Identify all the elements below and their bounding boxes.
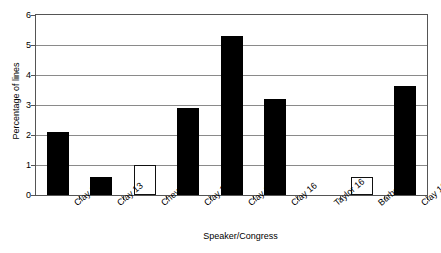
x-tick-label: Clay 16 bbox=[289, 200, 295, 208]
y-tick-label: 6 bbox=[5, 11, 31, 20]
bar-clay-15 bbox=[221, 36, 243, 195]
bar-chart: Percentage of lines 0123456 Clay 12Clay … bbox=[0, 0, 441, 253]
x-tick-label: Clay 12 bbox=[72, 200, 78, 208]
x-tick-label: Taylor 16 bbox=[332, 200, 338, 208]
x-tick-label: Cheves 13 bbox=[159, 200, 165, 208]
bar-clay-12 bbox=[47, 132, 69, 195]
x-tick-label: Barbour 17 bbox=[376, 200, 382, 208]
x-axis-labels: Clay 12Clay 13Cheves 13Clay 14Clay 15Cla… bbox=[36, 200, 427, 250]
x-axis-title: Speaker/Congress bbox=[0, 231, 441, 241]
x-tick-label: Clay 14 bbox=[202, 200, 208, 208]
x-tick-label: Clay 13 bbox=[115, 200, 121, 208]
x-tick-label: Clay 15 bbox=[246, 200, 252, 208]
y-tick-label: 3 bbox=[5, 101, 31, 110]
y-tick-label: 1 bbox=[5, 161, 31, 170]
y-axis-ticks: 0123456 bbox=[0, 14, 31, 196]
y-tick-label: 0 bbox=[5, 191, 31, 200]
y-tick-label: 5 bbox=[5, 41, 31, 50]
x-tick-label: Clay 18 bbox=[419, 200, 425, 208]
y-tick-label: 4 bbox=[5, 71, 31, 80]
y-tick-label: 2 bbox=[5, 131, 31, 140]
bars-layer bbox=[36, 15, 427, 195]
